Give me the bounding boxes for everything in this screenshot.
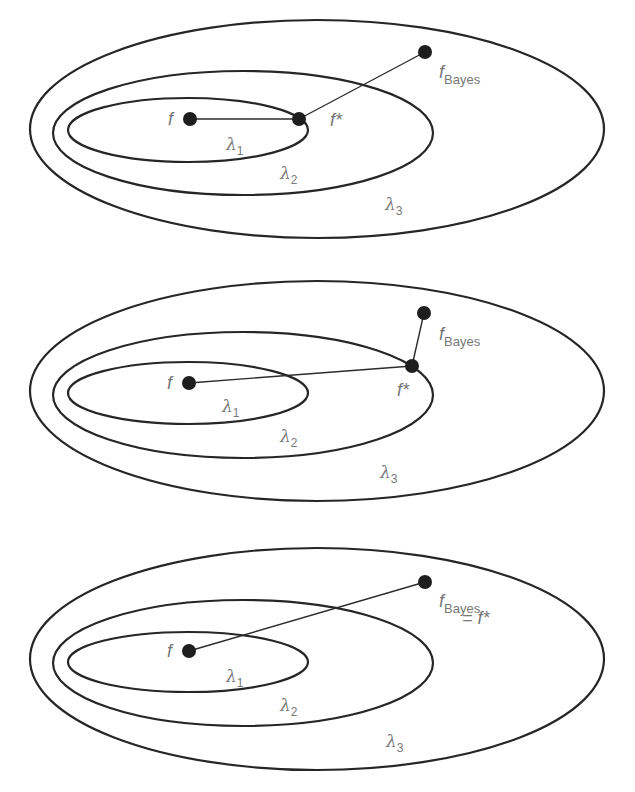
- f-bayes-point: [418, 575, 432, 589]
- f-bayes-point: [418, 45, 432, 59]
- lambda-2-boundary: [53, 600, 433, 726]
- lambda-3-boundary: [30, 281, 604, 501]
- lambda-1-boundary: [68, 98, 308, 162]
- f-label: f: [167, 641, 174, 661]
- lambda-2-label: λ2: [279, 163, 298, 187]
- panel-1: λ3λ2λ1ff*fBayes: [30, 20, 604, 238]
- lambda-2-boundary: [53, 332, 433, 458]
- lambda-1-label: λ1: [225, 666, 244, 690]
- lambda-3-boundary: [30, 20, 604, 238]
- lambda-2-label: λ2: [279, 426, 298, 450]
- f-label: f: [167, 373, 174, 393]
- f-star-point: [292, 112, 306, 126]
- f-star-label: f*: [330, 110, 343, 130]
- lambda-3-label: λ3: [385, 731, 404, 755]
- lambda-3-label: λ3: [384, 194, 403, 218]
- panel-3: λ3λ2λ1ffBayes= f*: [30, 548, 604, 770]
- f-star-label: f*: [397, 380, 410, 400]
- connector-f-to-f-star: [189, 366, 412, 383]
- lambda-1-boundary: [68, 632, 308, 692]
- lambda-3-boundary: [30, 548, 604, 770]
- connector-f-to-f-bayes: [189, 582, 425, 651]
- f-label: f: [168, 109, 175, 129]
- lambda-3-label: λ3: [379, 462, 398, 486]
- connector-f-star-to-f-bayes: [299, 52, 425, 119]
- f-bayes-label: fBayes: [439, 324, 481, 349]
- lambda-2-boundary: [53, 71, 433, 195]
- lambda-1-label: λ1: [225, 134, 244, 158]
- f-bayes-point: [417, 306, 431, 320]
- f-point: [183, 112, 197, 126]
- panel-2: λ3λ2λ1ff*fBayes: [30, 281, 604, 501]
- lambda-1-boundary: [68, 362, 308, 424]
- f-bayes-equals-f-star-label: = f*: [462, 608, 491, 628]
- nested-hypothesis-space-diagram: λ3λ2λ1ff*fBayesλ3λ2λ1ff*fBayesλ3λ2λ1ffBa…: [0, 0, 635, 792]
- f-bayes-label: fBayes: [439, 62, 481, 87]
- lambda-2-label: λ2: [279, 695, 298, 719]
- f-point: [182, 644, 196, 658]
- f-point: [182, 376, 196, 390]
- f-star-point: [405, 359, 419, 373]
- lambda-1-label: λ1: [221, 396, 240, 420]
- connector-f-star-to-f-bayes: [412, 313, 424, 366]
